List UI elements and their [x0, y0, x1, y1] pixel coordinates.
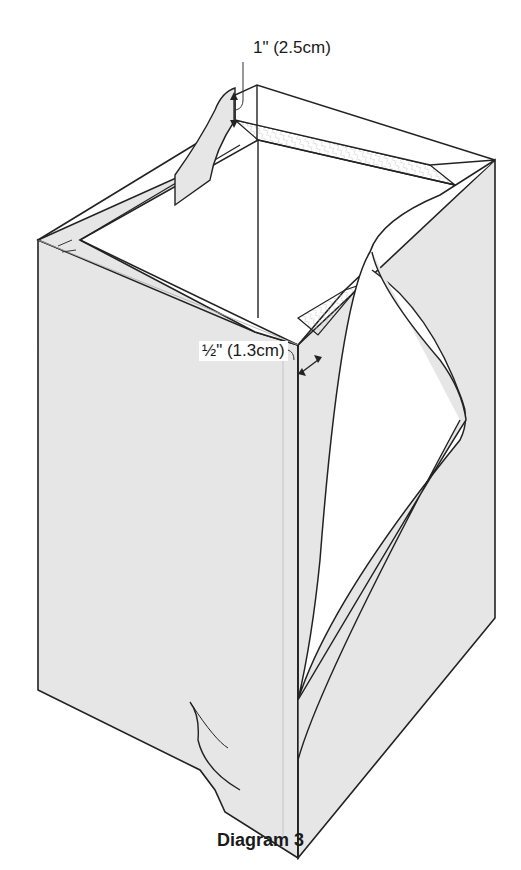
- top-allowance-label: 1" (2.5cm): [253, 38, 331, 58]
- diagram-caption: Diagram 3: [0, 830, 521, 851]
- box-diagram: [0, 0, 521, 870]
- side-allowance-label: ½" (1.3cm): [199, 341, 288, 361]
